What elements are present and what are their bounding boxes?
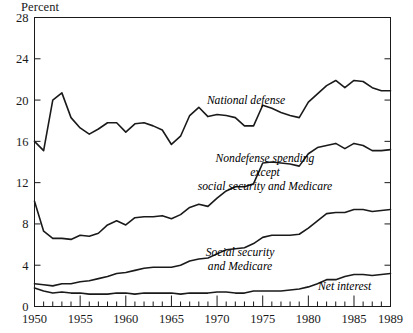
series-line-total-outlays-top (35, 80, 391, 150)
x-tick-label: 1970 (205, 312, 230, 326)
x-tick-label: 1960 (113, 312, 138, 326)
chart-container: Percent 0481216202428 195019551960196519… (0, 0, 413, 333)
annotation-social-security-line2: and Medicare (208, 260, 272, 273)
annotation-net-interest: Net interest (317, 280, 372, 293)
x-tick-label: 1965 (159, 312, 184, 326)
annotation-nondefense-line1: Nondefense spending (215, 152, 315, 165)
y-tick-label: 4 (22, 259, 29, 273)
annotation-nondefense-line2: except (250, 166, 280, 179)
chart-svg: 0481216202428 19501955196019651970197519… (0, 0, 413, 333)
x-axis-ticks (35, 296, 391, 307)
y-tick-label: 8 (22, 217, 28, 231)
y-tick-label: 16 (16, 135, 29, 149)
y-tick-label: 28 (16, 11, 29, 25)
y-tick-label: 20 (16, 94, 29, 108)
annotation-social-security-line1: Social security (206, 246, 275, 259)
x-axis-labels: 195019551960196519701975198019851989 (22, 312, 403, 326)
annotation-nondefense-line3: social security and Medicare (198, 180, 332, 193)
x-tick-label: 1989 (378, 312, 403, 326)
y-tick-label: 24 (16, 52, 29, 66)
y-tick-label: 12 (16, 176, 29, 190)
x-tick-label: 1980 (296, 312, 321, 326)
y-axis-ticks (35, 59, 41, 265)
y-axis-labels: 0481216202428 (16, 11, 29, 314)
y-axis-ticks-right (385, 59, 391, 265)
x-tick-label: 1985 (341, 312, 366, 326)
x-tick-label: 1975 (250, 312, 275, 326)
x-tick-label: 1950 (22, 312, 47, 326)
x-tick-label: 1955 (68, 312, 93, 326)
annotation-national-defense: National defense (206, 94, 285, 107)
